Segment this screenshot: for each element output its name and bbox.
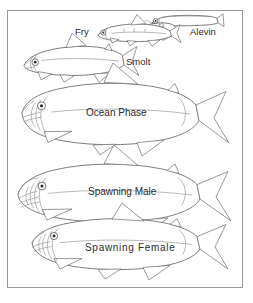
label-smolt: Smolt xyxy=(126,57,150,67)
smolt-eye-pupil xyxy=(34,61,37,64)
label-ocean-phase: Ocean Phase xyxy=(86,108,147,118)
smolt-pelvic-fin xyxy=(60,75,74,83)
alevin-snout-line xyxy=(146,20,153,23)
salmon-life-stages-figure: Fry Alevin Smolt Ocean Phase Spawning Ma… xyxy=(0,0,253,303)
spawning-male-tail-fin xyxy=(197,172,231,222)
spawning-female-anal-fin xyxy=(143,265,170,280)
fry-anal-fin xyxy=(148,40,160,46)
spawning-female-tail-fin xyxy=(197,225,228,270)
label-alevin: Alevin xyxy=(190,27,216,37)
spawning-female-eye-pupil xyxy=(53,235,56,238)
label-spawning-male: Spawning Male xyxy=(88,187,156,197)
fry-pelvic-fin xyxy=(127,41,136,46)
spawning-male-eye-pupil xyxy=(40,184,43,187)
label-fry: Fry xyxy=(75,27,89,37)
fry-dorsal-fin xyxy=(131,15,146,26)
ocean-phase-eye-pupil xyxy=(40,104,43,107)
spawning-female-pelvic-fin xyxy=(98,269,121,279)
fry-eye-pupil xyxy=(102,32,104,34)
smolt-adipose-fin xyxy=(105,44,112,51)
figure-artwork xyxy=(0,0,253,303)
alevin-tail-fin xyxy=(217,14,224,27)
ocean-phase-tail-fin xyxy=(196,92,229,144)
label-spawning-female: Spawning Female xyxy=(85,243,176,253)
ocean-phase-anal-fin xyxy=(137,140,164,156)
alevin-eye-pupil xyxy=(155,20,157,22)
